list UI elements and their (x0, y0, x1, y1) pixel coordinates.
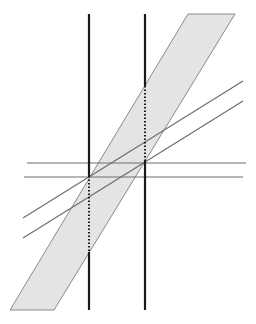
geometry-diagram (0, 0, 256, 324)
shaded-band (10, 14, 235, 310)
diagonal-line-1 (23, 81, 243, 218)
diagram-canvas (0, 0, 256, 324)
